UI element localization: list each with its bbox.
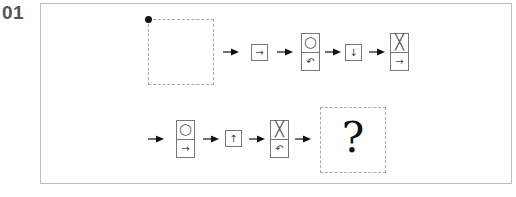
question-number: 01 [2,2,24,24]
start-dot-marker [145,16,152,23]
instruction-cross-rotate: ╳ ↶ [270,120,289,158]
cross-icon: ╳ [275,122,284,137]
instruction-circle-rotate: ○ ↶ [301,33,320,71]
flow-arrow-icon [223,47,239,57]
arrow-right-icon: → [395,56,403,67]
flow-arrow-icon [369,47,385,57]
flow-arrow-icon [295,134,311,144]
flow-arrow-icon [325,47,341,57]
circle-icon: ○ [304,35,317,50]
start-grid-box [148,19,214,85]
cross-icon: ╳ [395,35,404,50]
rotate-ccw-icon: ↶ [275,143,283,154]
question-mark: ? [320,117,386,159]
instruction-cross-move-right: ╳ → [390,33,409,71]
circle-icon: ○ [179,122,192,137]
instruction-circle-move-right: ○ → [176,120,195,158]
instruction-move-up: ↑ [225,130,242,147]
flow-arrow-icon [277,47,293,57]
arrow-down-icon: ↓ [349,47,357,58]
flow-arrow-icon [148,134,164,144]
arrow-right-icon: → [181,143,189,154]
arrow-right-icon: → [255,47,263,58]
flow-arrow-icon [203,134,219,144]
flow-arrow-icon [249,134,265,144]
rotate-ccw-icon: ↶ [306,56,314,67]
instruction-move-right: → [251,44,268,61]
arrow-up-icon: ↑ [229,133,237,144]
instruction-move-down: ↓ [345,44,362,61]
